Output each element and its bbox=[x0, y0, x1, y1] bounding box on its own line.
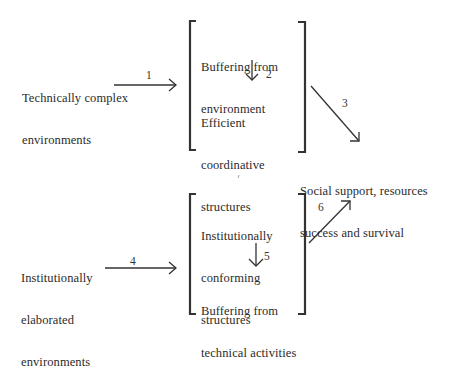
lower-box-bottom-line1: Buffering from bbox=[201, 304, 296, 318]
lower-box-top-line1: Institutionally bbox=[201, 229, 273, 243]
node-outcome-line2: success and survival bbox=[300, 226, 428, 240]
node-institutional-env-line3: environments bbox=[21, 355, 93, 369]
node-technical-env-line1: Technically complex bbox=[22, 91, 128, 105]
arrow-4-icon bbox=[105, 262, 176, 274]
lower-box-bottom-text: Buffering from technical activities bbox=[201, 276, 296, 370]
arrow-3-icon bbox=[311, 86, 359, 141]
node-technical-env: Technically complex environments bbox=[22, 63, 128, 175]
node-institutional-env-line2: elaborated bbox=[21, 313, 93, 327]
edge-label-2: 2 bbox=[266, 68, 272, 80]
lower-box-bottom-line2: technical activities bbox=[201, 346, 296, 360]
node-outcome-line1: Social support, resources bbox=[300, 184, 428, 198]
lower-bracket-left bbox=[190, 194, 196, 314]
node-technical-env-line2: environments bbox=[22, 133, 128, 147]
node-institutional-env-line1: Institutionally bbox=[21, 271, 93, 285]
node-institutional-env: Institutionally elaborated environments bbox=[21, 243, 93, 370]
edge-label-4: 4 bbox=[130, 255, 136, 267]
edge-label-6: 6 bbox=[318, 201, 324, 213]
upper-box-bottom-line2: coordinative bbox=[201, 158, 265, 172]
edge-label-3: 3 bbox=[342, 97, 348, 109]
upper-bracket-right bbox=[298, 22, 305, 152]
upper-box-bottom-line1: Efficient bbox=[201, 116, 265, 130]
upper-bracket-left bbox=[190, 21, 196, 150]
edge-label-5: 5 bbox=[264, 250, 270, 262]
edge-label-1: 1 bbox=[146, 69, 152, 81]
